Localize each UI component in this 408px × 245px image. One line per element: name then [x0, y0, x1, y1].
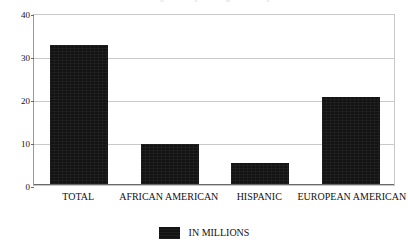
x-axis-labels-group: TOTALAFRICAN AMERICANHISPANICEUROPEAN AM…: [33, 190, 395, 206]
bar: [141, 144, 199, 184]
y-tick-label-20: 20: [21, 97, 30, 106]
cropped-title-artifact: [150, 0, 300, 4]
legend-label: IN MILLIONS: [189, 228, 250, 238]
x-axis-baseline: [34, 184, 394, 185]
chart-legend: IN MILLIONS: [0, 224, 408, 242]
y-tick-label-10: 10: [21, 140, 30, 149]
x-axis-label: AFRICAN AMERICAN: [117, 190, 222, 204]
bar: [322, 97, 380, 184]
y-tick-label-40: 40: [21, 11, 30, 20]
bar: [50, 45, 108, 184]
y-tick-label-30: 30: [21, 54, 30, 63]
x-axis-label: HISPANIC: [207, 190, 312, 204]
plot-area: 010203040: [33, 14, 395, 186]
x-axis-label: TOTAL: [26, 190, 131, 204]
bar-chart-figure: 010203040 TOTALAFRICAN AMERICANHISPANICE…: [0, 0, 408, 245]
bars-group: [34, 15, 394, 185]
y-tick-mark-0: [31, 187, 34, 188]
x-axis-label: EUROPEAN AMERICAN: [298, 190, 403, 204]
legend-color-swatch: [159, 227, 180, 239]
bar: [231, 163, 289, 185]
